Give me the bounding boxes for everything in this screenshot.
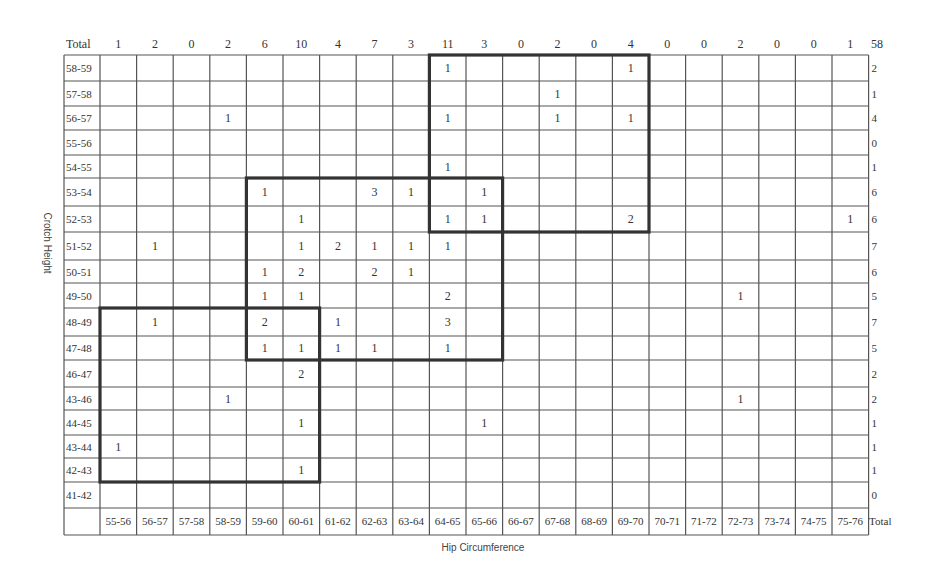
cell-value: 1: [335, 341, 341, 355]
cell-value: 1: [628, 111, 634, 125]
y-category-label: 49-50: [66, 290, 92, 302]
y-category-label: 43-46: [66, 393, 92, 405]
x-category-label: 60-61: [288, 515, 314, 527]
row-total: 7: [872, 316, 878, 328]
cell-value: 1: [628, 61, 634, 75]
y-category-label: 42-43: [66, 464, 92, 476]
x-category-label: 56-57: [142, 515, 168, 527]
x-category-label: 66-67: [508, 515, 534, 527]
cell-value: 1: [481, 212, 487, 226]
x-category-label: 68-69: [581, 515, 607, 527]
row-total: 7: [872, 240, 878, 252]
y-category-label: 56-57: [66, 112, 92, 124]
cell-value: 2: [262, 315, 268, 329]
column-total: 0: [518, 37, 524, 51]
x-category-label: 64-65: [435, 515, 461, 527]
column-total: 0: [189, 37, 195, 51]
x-category-label: 58-59: [215, 515, 241, 527]
column-total: 0: [811, 37, 817, 51]
cell-value: 1: [408, 239, 414, 253]
cell-value: 1: [738, 392, 744, 406]
y-category-label: 47-48: [66, 342, 92, 354]
cell-value: 1: [372, 341, 378, 355]
cell-value: 1: [445, 341, 451, 355]
cell-value: 3: [372, 185, 378, 199]
cell-value: 1: [335, 315, 341, 329]
cell-value: 2: [298, 367, 304, 381]
y-category-label: 58-59: [66, 62, 92, 74]
y-category-label: 53-54: [66, 186, 92, 198]
grid-lines: [64, 55, 869, 535]
cell-value: 1: [262, 185, 268, 199]
column-total: 10: [295, 37, 307, 51]
cell-value: 1: [738, 289, 744, 303]
row-total: 2: [872, 393, 878, 405]
x-category-label: 57-58: [179, 515, 205, 527]
row-total: 2: [872, 62, 878, 74]
row-totals: 214016676575221110: [872, 62, 878, 501]
y-category-label: 54-55: [66, 161, 92, 173]
x-category-label: 74-75: [801, 515, 827, 527]
y-category-label: 52-53: [66, 213, 92, 225]
column-total: 1: [115, 37, 121, 51]
cell-value: 1: [408, 185, 414, 199]
cell-value: 1: [445, 61, 451, 75]
cell-value: 1: [481, 185, 487, 199]
x-category-label: 63-64: [398, 515, 424, 527]
row-total: 1: [872, 88, 878, 100]
column-total: 4: [335, 37, 341, 51]
cell-value: 2: [335, 239, 341, 253]
cell-value: 1: [555, 87, 561, 101]
cell-value: 1: [847, 212, 853, 226]
cell-value: 1: [298, 289, 304, 303]
cell-value: 3: [445, 315, 451, 329]
cell-value: 1: [298, 416, 304, 430]
row-total: 1: [872, 417, 878, 429]
column-total: 2: [152, 37, 158, 51]
cell-value: 1: [225, 111, 231, 125]
column-total: 1: [847, 37, 853, 51]
x-category-label: 72-73: [728, 515, 754, 527]
cell-value: 1: [445, 239, 451, 253]
y-category-label: 46-47: [66, 368, 92, 380]
column-totals: 12026104731130204002001: [115, 37, 853, 51]
cell-value: 1: [262, 341, 268, 355]
x-axis-labels: 55-5656-5757-5858-5959-6060-6161-6262-63…: [105, 515, 863, 527]
size-distribution-chart: 1111111113111112111211112211121121311111…: [0, 0, 936, 577]
x-category-label: 70-71: [654, 515, 680, 527]
x-category-label: 61-62: [325, 515, 351, 527]
x-category-label: 65-66: [471, 515, 497, 527]
x-category-label: 73-74: [764, 515, 790, 527]
y-category-label: 48-49: [66, 316, 92, 328]
cell-value: 1: [225, 392, 231, 406]
row-total: 4: [872, 112, 878, 124]
row-total: 6: [872, 266, 878, 278]
cell-value: 1: [555, 111, 561, 125]
x-category-label: 62-63: [362, 515, 388, 527]
row-total: 0: [872, 489, 878, 501]
cell-value: 1: [115, 440, 121, 454]
row-total: 6: [872, 213, 878, 225]
header-total-label: Total: [66, 37, 91, 51]
x-category-label: 71-72: [691, 515, 717, 527]
cell-value: 1: [372, 239, 378, 253]
y-category-label: 55-56: [66, 137, 92, 149]
x-category-label: 55-56: [105, 515, 131, 527]
x-category-label: 75-76: [837, 515, 863, 527]
row-total: 2: [872, 368, 878, 380]
row-total: 0: [872, 137, 878, 149]
cell-value: 1: [481, 416, 487, 430]
y-category-label: 41-42: [66, 489, 92, 501]
row-total: 1: [872, 161, 878, 173]
row-total: 5: [872, 290, 878, 302]
row-total: 1: [872, 464, 878, 476]
cell-value: 1: [445, 160, 451, 174]
cell-value: 2: [298, 265, 304, 279]
column-total: 4: [628, 37, 634, 51]
x-category-label: 59-60: [252, 515, 278, 527]
column-total: 6: [262, 37, 268, 51]
row-total: 5: [872, 342, 878, 354]
x-category-label: 69-70: [618, 515, 644, 527]
y-category-label: 43-44: [66, 441, 92, 453]
cell-value: 1: [152, 239, 158, 253]
